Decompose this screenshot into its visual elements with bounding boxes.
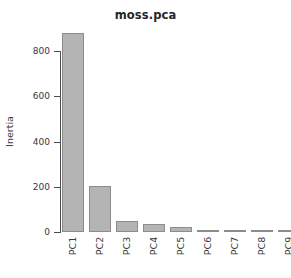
- y-tick-label-text: 200: [14, 181, 50, 193]
- x-tick-label: PC9: [283, 231, 291, 261]
- y-tick: [54, 142, 61, 143]
- y-tick-label: 600: [14, 90, 50, 102]
- bar: [62, 33, 84, 232]
- x-tick-label: PC4: [148, 231, 160, 261]
- plot-area: 0200400600800 Inertia PC1PC2PC3PC4PC5PC6…: [0, 0, 291, 278]
- y-tick-label: 400: [14, 136, 50, 148]
- x-tick-label: PC5: [175, 231, 187, 261]
- y-tick-label: 0: [14, 226, 50, 238]
- y-tick: [54, 96, 61, 97]
- x-tick-label: PC3: [121, 231, 133, 261]
- y-tick: [54, 51, 61, 52]
- x-tick-label: PC2: [94, 231, 106, 261]
- y-tick-label-text: 0: [14, 226, 50, 238]
- x-tick-label: PC7: [229, 231, 241, 261]
- y-axis-title: Inertia: [4, 109, 15, 155]
- bar: [89, 186, 111, 232]
- y-tick-label: 200: [14, 181, 50, 193]
- y-tick-label-text: 800: [14, 45, 50, 57]
- y-tick-label-text: 400: [14, 136, 50, 148]
- x-tick-label: PC8: [256, 231, 268, 261]
- y-tick: [54, 232, 61, 233]
- y-tick-label: 800: [14, 45, 50, 57]
- x-tick-label: PC1: [67, 231, 79, 261]
- y-tick-label-text: 600: [14, 90, 50, 102]
- plot-window: moss.pca 0200400600800 Inertia PC1PC2PC3…: [0, 0, 291, 278]
- y-tick: [54, 187, 61, 188]
- x-tick-label: PC6: [202, 231, 214, 261]
